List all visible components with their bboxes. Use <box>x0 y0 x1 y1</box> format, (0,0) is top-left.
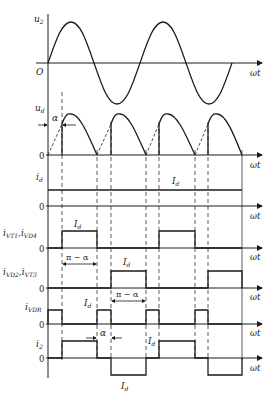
x-axis-label: ωt <box>250 68 261 78</box>
ivd2-x-label: ωt <box>250 292 261 302</box>
ud-label: ud <box>35 103 45 114</box>
ivd2-zero: 0 <box>39 284 44 294</box>
i2-label: i2 <box>36 339 43 350</box>
waveform-diagram: u2 O ωt α ud 0 ωt id Id 0 ωt iVT1,iVD4 I… <box>0 0 272 397</box>
ivt1-x-label: ωt <box>250 252 261 262</box>
ud-x-label: ωt <box>250 160 261 170</box>
origin-label: O <box>36 67 44 77</box>
alpha-annotation-ud: α <box>52 113 58 123</box>
ivdr-label: iVDR <box>25 302 42 313</box>
ivd2-ivt3-label: iVD2,iVT3 <box>3 267 37 278</box>
ivdr-level-label: Id <box>83 298 92 309</box>
id-zero: 0 <box>39 202 44 212</box>
panel-ivt1-ivd4: iVT1,iVD4 Id 0 ωt π − α <box>3 219 262 264</box>
panel-i2: i2 Id Id 0 ωt <box>36 336 262 392</box>
ivdr-zero: 0 <box>39 320 44 330</box>
i2-level-label: Id <box>147 336 156 347</box>
pi-minus-alpha-1: π − α <box>66 253 89 262</box>
u2-label: u2 <box>34 14 44 25</box>
ivt1-level-label: Id <box>73 219 82 230</box>
i2-x-label: ωt <box>250 363 261 373</box>
id-x-label: ωt <box>250 211 261 221</box>
ivdr-x-label: ωt <box>250 328 261 338</box>
ivt1-zero: 0 <box>39 244 44 254</box>
ud-zero: 0 <box>39 151 44 161</box>
panel-ivd2-ivt3: iVD2,iVT3 Id 0 ωt π − α <box>3 257 262 302</box>
ivd2-level-label: Id <box>122 257 131 268</box>
i2-zero: 0 <box>39 354 44 364</box>
panel-ivdr: iVDR Id 0 ωt α <box>25 298 262 338</box>
panel-id: id Id 0 ωt <box>36 172 262 221</box>
panel-u2: u2 O ωt <box>34 14 262 104</box>
ivt1-ivd4-label: iVT1,iVD4 <box>3 228 37 239</box>
alpha-annotation-ivdr: α <box>100 328 106 338</box>
id-label: id <box>36 172 43 183</box>
i2-neg-level-label: Id <box>120 381 129 392</box>
panel-ud: α ud 0 ωt <box>35 103 262 170</box>
pi-minus-alpha-2: π − α <box>116 290 139 299</box>
id-level-label: Id <box>171 176 180 187</box>
